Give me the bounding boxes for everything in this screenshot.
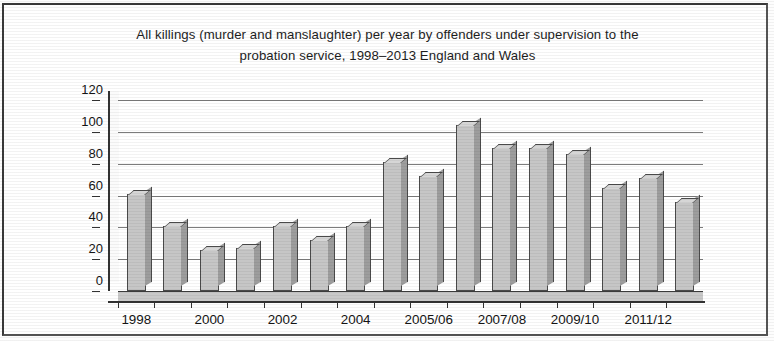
bar-side-face bbox=[657, 171, 664, 286]
x-tick-label: 2000 bbox=[195, 312, 225, 327]
x-tick-label: 2011/12 bbox=[624, 312, 671, 327]
y-tick-mark bbox=[92, 132, 100, 133]
y-tick-label: 40 bbox=[89, 209, 103, 224]
bar bbox=[675, 202, 694, 291]
bar bbox=[602, 188, 621, 291]
bar bbox=[566, 154, 585, 291]
x-tick-label: 2004 bbox=[341, 312, 371, 327]
x-tick-label: 2009/10 bbox=[551, 312, 599, 327]
chart-title: All killings (murder and manslaughter) p… bbox=[60, 24, 715, 66]
gridline bbox=[118, 164, 703, 165]
y-tick-mark bbox=[92, 196, 100, 197]
gridline bbox=[118, 132, 703, 133]
y-tick-mark bbox=[92, 164, 100, 165]
bar bbox=[273, 226, 292, 291]
bar bbox=[346, 226, 365, 291]
y-tick-label: 120 bbox=[81, 82, 103, 97]
bar bbox=[492, 148, 511, 291]
bar bbox=[529, 148, 548, 291]
gridline bbox=[118, 291, 703, 292]
y-tick-label: 80 bbox=[89, 146, 103, 161]
bar bbox=[639, 178, 658, 291]
bar-side-face bbox=[584, 147, 591, 286]
y-tick-label: 20 bbox=[89, 241, 103, 256]
bar-side-face bbox=[145, 187, 152, 286]
x-tick-label: 2002 bbox=[268, 312, 298, 327]
bar bbox=[163, 226, 182, 291]
plot-floor bbox=[118, 291, 703, 301]
bar-side-face bbox=[547, 140, 554, 286]
y-tick-mark bbox=[92, 227, 100, 228]
bar-side-face bbox=[693, 195, 700, 286]
bar-side-face bbox=[620, 180, 627, 286]
x-tick-label: 2005/06 bbox=[405, 312, 453, 327]
y-tick-mark bbox=[92, 100, 100, 101]
bar-side-face bbox=[510, 140, 517, 286]
bar bbox=[419, 176, 438, 291]
bar bbox=[310, 240, 329, 291]
bar-side-face bbox=[181, 218, 188, 286]
bar-side-face bbox=[364, 218, 371, 286]
bar-side-face bbox=[328, 233, 335, 286]
y-tick-label: 100 bbox=[81, 114, 103, 129]
bar bbox=[383, 162, 402, 291]
bar-side-face bbox=[401, 155, 408, 286]
bar bbox=[456, 125, 475, 291]
x-tick-label: 1998 bbox=[121, 312, 151, 327]
y-tick-mark bbox=[92, 259, 100, 260]
plot-area: 020406080100120 19982000200220042005/062… bbox=[118, 100, 703, 291]
chart-title-line-1: All killings (murder and manslaughter) p… bbox=[136, 27, 638, 42]
chart-figure: All killings (murder and manslaughter) p… bbox=[0, 0, 774, 341]
bar bbox=[236, 248, 255, 291]
x-tick-label: 2007/08 bbox=[478, 312, 526, 327]
y-tick-label: 0 bbox=[96, 273, 103, 288]
bar-side-face bbox=[474, 118, 481, 286]
y-tick-mark bbox=[92, 291, 100, 292]
bar bbox=[200, 250, 219, 291]
chart-title-line-2: probation service, 1998–2013 England and… bbox=[60, 45, 715, 66]
y-axis-line bbox=[108, 91, 110, 291]
x-axis-line bbox=[108, 301, 705, 303]
bar bbox=[127, 194, 146, 291]
bar-side-face bbox=[291, 218, 298, 286]
gridline bbox=[118, 100, 703, 101]
bar-side-face bbox=[437, 169, 444, 286]
y-tick-label: 60 bbox=[89, 178, 103, 193]
